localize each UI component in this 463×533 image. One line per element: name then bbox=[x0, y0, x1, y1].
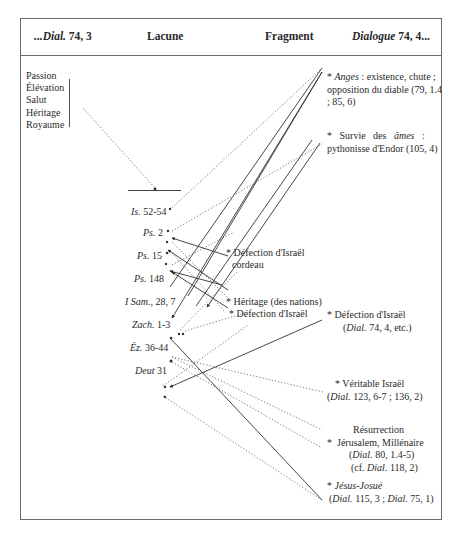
ref-chapter: 148 bbox=[147, 273, 165, 284]
anges-line: opposition du diable (79, 1.4 bbox=[327, 84, 437, 97]
jesus-josue-word: Jésus-Josué bbox=[335, 480, 383, 491]
fragment-defection-israel-2: * Défection d'Israël bbox=[229, 308, 307, 320]
dial-abbrev: Dial. bbox=[330, 391, 350, 402]
dial-abbrev: Dial. bbox=[388, 493, 408, 504]
ref-chapter: 31 bbox=[154, 365, 167, 376]
theme-list: Passion Élévation Salut Héritage Royaume bbox=[26, 70, 64, 131]
ref-book: Zach. bbox=[132, 319, 155, 330]
anges-word: Anges bbox=[335, 71, 359, 82]
dialogue-defection-israel: * Défection d'Israël (Dial. 74, 4, etc.) bbox=[327, 309, 439, 334]
ref-chapter: , 28, 7 bbox=[151, 296, 176, 307]
anges-line: ; 85, 6) bbox=[327, 96, 437, 109]
dialogue-survie-ames: * Survie des âmes : pythonisse d'Endor (… bbox=[327, 130, 439, 155]
resurrection-line: Résurrection bbox=[327, 424, 439, 437]
cf-prefix: (cf. bbox=[351, 462, 367, 473]
defection-ref: 74, 4, etc.) bbox=[367, 322, 412, 333]
anges-text: : existence, chute ; bbox=[359, 71, 436, 82]
ref-psalm-2: Ps. 2 bbox=[143, 227, 163, 238]
dial-abbrev: Dial. bbox=[346, 322, 366, 333]
ref-deuteronome: Deut 31 bbox=[135, 365, 167, 376]
dialogue-anges: * Anges : existence, chute ; opposition … bbox=[327, 71, 437, 109]
dialogue-jesus-josue: * Jésus-Josué (Dial. 115, 3 ; Dial. 75, … bbox=[327, 480, 442, 505]
dialogue-resurrection: Résurrection * Jérusalem, Millénaire (Di… bbox=[327, 424, 439, 474]
header-dial-74-3: ...Dial. 74, 3 bbox=[34, 30, 92, 42]
header-dialogue-label: Dialogue bbox=[352, 30, 395, 42]
veritable-line: * Véritable Israël bbox=[327, 378, 439, 391]
dialogue-veritable-israel: * Véritable Israël (Dial. 123, 6-7 ; 136… bbox=[327, 378, 439, 403]
header-dialogue-74-4: Dialogue 74, 4... bbox=[352, 30, 430, 42]
veritable-ref: 123, 6-7 ; 136, 2) bbox=[351, 391, 423, 402]
ref-psalm-15: Ps. 15 bbox=[137, 250, 162, 261]
dial-abbrev: Dial. bbox=[352, 449, 372, 460]
ref-book: Ps. bbox=[137, 250, 150, 261]
ref-book: Ps. bbox=[134, 273, 147, 284]
header-divider bbox=[20, 55, 442, 56]
asterisk: * bbox=[327, 480, 335, 491]
fragment-line: * Défection d'Israël bbox=[226, 247, 304, 259]
theme-heritage: Héritage bbox=[26, 107, 64, 119]
asterisk: * Survie des bbox=[327, 130, 394, 141]
ref-book: Is. bbox=[131, 206, 141, 217]
header-lacune: Lacune bbox=[147, 30, 183, 42]
ref-chapter: 2 bbox=[156, 227, 164, 238]
ref-book: Éz. bbox=[130, 342, 143, 353]
theme-bracket bbox=[69, 79, 70, 127]
header-dialogue-ref: 74, 4... bbox=[395, 30, 430, 42]
header-dial-ref: 74, 3 bbox=[66, 30, 92, 42]
fragment-defection-israel-1: * Défection d'Israël cordeau bbox=[226, 247, 304, 271]
ref-zacharie: Zach. 1-3 bbox=[132, 319, 170, 330]
theme-salut: Salut bbox=[26, 94, 64, 106]
jesus-ref: 115, 3 ; bbox=[353, 493, 388, 504]
dial-abbrev: Dial. bbox=[332, 493, 352, 504]
resurrection-ref: 80, 1.4-5) bbox=[373, 449, 415, 460]
fragment-heritage-nations: * Héritage (des nations) bbox=[226, 296, 322, 308]
ref-psalm-148: Ps. 148 bbox=[134, 273, 164, 284]
ames-text: : bbox=[415, 130, 425, 141]
ref-book: I Sam. bbox=[125, 296, 151, 307]
resurrection-ref: 118, 2) bbox=[387, 462, 417, 473]
fragment-line: cordeau bbox=[226, 259, 304, 271]
dial-abbrev: Dial. bbox=[367, 462, 387, 473]
ames-word: âmes bbox=[394, 130, 415, 141]
defection-line: * Défection d'Israël bbox=[327, 309, 439, 322]
ref-1-samuel: I Sam., 28, 7 bbox=[125, 296, 176, 307]
ref-book: Ps. bbox=[143, 227, 156, 238]
ref-isaiah: Is. 52-54 bbox=[131, 206, 167, 217]
theme-royaume: Royaume bbox=[26, 119, 64, 131]
theme-passion: Passion bbox=[26, 70, 64, 82]
header-fragment: Fragment bbox=[265, 30, 314, 42]
ref-chapter: 52-54 bbox=[141, 206, 167, 217]
resurrection-line: * Jérusalem, Millénaire bbox=[327, 437, 439, 450]
ref-chapter: 15 bbox=[150, 250, 163, 261]
ref-chapter: 36-44 bbox=[143, 342, 169, 353]
ames-line: pythonisse d'Endor (105, 4) bbox=[327, 143, 439, 156]
ref-book: Deut bbox=[135, 365, 154, 376]
header-dial-label: ...Dial. bbox=[34, 30, 66, 42]
asterisk: * bbox=[327, 71, 335, 82]
ref-chapter: 1-3 bbox=[155, 319, 171, 330]
jesus-ref: 75, 1) bbox=[408, 493, 434, 504]
theme-elevation: Élévation bbox=[26, 82, 64, 94]
ref-ezechiel: Éz. 36-44 bbox=[130, 342, 168, 353]
lacune-rule bbox=[128, 190, 181, 191]
